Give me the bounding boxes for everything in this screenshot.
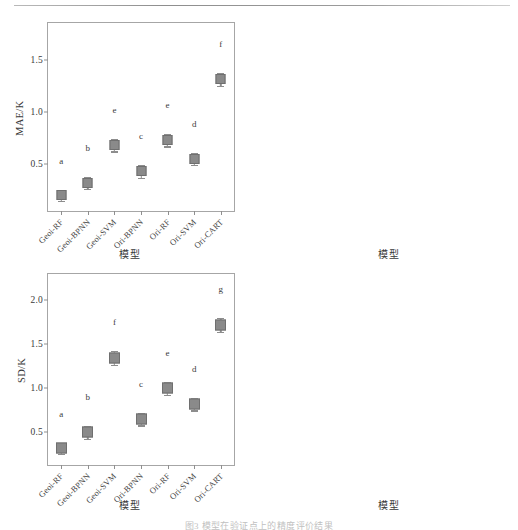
y-tick-mae-0: 0.5 — [31, 159, 48, 169]
marker-sd-0 — [56, 443, 67, 454]
error-cap-mae-0-low — [58, 201, 65, 202]
data-point-sd-1[interactable]: b — [87, 274, 88, 465]
x-tick-sd-0 — [61, 465, 62, 469]
x-tick-mae-1 — [88, 211, 89, 215]
sig-letter-sd-4: e — [166, 348, 170, 358]
y-axis-label-sd: SD/K — [16, 358, 27, 383]
plot-area-sd: 0.51.01.52.0Geoi-RFaGeoi-BPNNbGeoi-SVMfO… — [47, 273, 235, 466]
x-tick-sd-4 — [168, 465, 169, 469]
panel-mae: 0.51.01.5Geoi-RFaGeoi-BPNNbGeoi-SVMeOri-… — [0, 8, 259, 265]
panel-r2: 0.900.951.001.05Geoi-RFcGeoi-BPNNcGeoi-S… — [259, 265, 518, 508]
plot-area-mae: 0.51.01.5Geoi-RFaGeoi-BPNNbGeoi-SVMeOri-… — [47, 22, 235, 212]
error-cap-sd-4-low — [164, 395, 171, 396]
data-point-mae-0[interactable]: a — [61, 23, 62, 211]
x-axis-title-rmse: 模型 — [259, 246, 518, 261]
x-tick-sd-1 — [88, 465, 89, 469]
panel-rmse: 0.51.01.52.0Geoi-RFaGeoi-BPNNbGeoi-SVMeO… — [259, 8, 518, 265]
marker-mae-4 — [163, 135, 173, 145]
x-tick-mae-6 — [221, 211, 222, 215]
marker-mae-3 — [136, 166, 146, 176]
x-tick-mae-2 — [114, 211, 115, 215]
sig-letter-sd-3: c — [139, 379, 143, 389]
y-axis-label-mae: MAE/K — [14, 101, 25, 136]
sig-letter-mae-2: e — [112, 105, 116, 115]
sig-letter-sd-5: d — [192, 364, 197, 374]
figure-panel-grid: 0.51.01.5Geoi-RFaGeoi-BPNNbGeoi-SVMeOri-… — [0, 8, 518, 508]
scan-artifact-rule — [14, 5, 510, 6]
data-point-sd-3[interactable]: c — [141, 274, 142, 465]
data-point-sd-6[interactable]: g — [220, 274, 221, 465]
y-tick-sd-2: 1.5 — [31, 339, 48, 349]
error-cap-sd-2-low — [111, 365, 118, 366]
marker-sd-5 — [189, 399, 200, 410]
data-point-sd-4[interactable]: e — [167, 274, 168, 465]
data-point-sd-5[interactable]: d — [194, 274, 195, 465]
marker-sd-4 — [162, 383, 173, 394]
error-cap-mae-2-low — [111, 151, 118, 152]
data-point-mae-4[interactable]: e — [167, 23, 168, 211]
marker-sd-3 — [136, 414, 147, 425]
y-tick-sd-1: 1.0 — [31, 383, 48, 393]
sig-letter-mae-5: d — [192, 119, 197, 129]
y-tick-sd-0: 0.5 — [31, 427, 48, 437]
error-cap-mae-3-low — [138, 178, 145, 179]
x-tick-sd-3 — [141, 465, 142, 469]
sig-letter-mae-0: a — [59, 156, 63, 166]
x-tick-mae-4 — [168, 211, 169, 215]
error-cap-sd-3-low — [138, 425, 145, 426]
marker-mae-5 — [189, 154, 199, 164]
sig-letter-sd-1: b — [86, 392, 91, 402]
error-cap-sd-6-low — [217, 332, 224, 333]
x-tick-sd-6 — [221, 465, 222, 469]
plot-inner-sd: 0.51.01.52.0Geoi-RFaGeoi-BPNNbGeoi-SVMfO… — [48, 274, 234, 465]
data-point-mae-3[interactable]: c — [141, 23, 142, 211]
sig-letter-sd-2: f — [113, 317, 116, 327]
x-axis-title-sd: 模型 — [0, 497, 259, 512]
sig-letter-mae-6: f — [219, 39, 222, 49]
x-axis-title-r2: 模型 — [259, 497, 518, 512]
marker-sd-2 — [109, 352, 120, 363]
error-cap-mae-4-low — [164, 146, 171, 147]
marker-mae-2 — [109, 140, 119, 150]
data-point-sd-0[interactable]: a — [61, 274, 62, 465]
error-cap-sd-1-low — [84, 439, 91, 440]
x-tick-sd-2 — [114, 465, 115, 469]
error-cap-sd-5-low — [191, 410, 198, 411]
y-tick-mae-2: 1.5 — [31, 55, 48, 65]
sig-letter-mae-3: c — [139, 131, 143, 141]
x-tick-mae-3 — [141, 211, 142, 215]
error-cap-mae-5-low — [191, 165, 198, 166]
marker-mae-1 — [83, 178, 93, 188]
data-point-mae-2[interactable]: e — [114, 23, 115, 211]
x-axis-title-mae: 模型 — [0, 246, 259, 261]
marker-mae-0 — [56, 190, 66, 200]
plot-inner-mae: 0.51.01.5Geoi-RFaGeoi-BPNNbGeoi-SVMeOri-… — [48, 23, 234, 211]
sig-letter-sd-0: a — [59, 409, 63, 419]
marker-sd-6 — [215, 320, 226, 331]
error-cap-mae-6-low — [217, 86, 224, 87]
data-point-mae-1[interactable]: b — [87, 23, 88, 211]
sig-letter-sd-6: g — [218, 284, 223, 294]
panel-sd: 0.51.01.52.0Geoi-RFaGeoi-BPNNbGeoi-SVMfO… — [0, 265, 259, 508]
marker-sd-1 — [82, 427, 93, 438]
marker-mae-6 — [216, 74, 226, 84]
sig-letter-mae-1: b — [86, 143, 91, 153]
y-tick-sd-3: 2.0 — [31, 295, 48, 305]
data-point-sd-2[interactable]: f — [114, 274, 115, 465]
x-tick-sd-5 — [194, 465, 195, 469]
figure-caption: 图3 模型在验证点上的精度评价结果 — [0, 519, 518, 530]
y-tick-mae-1: 1.0 — [31, 107, 48, 117]
error-cap-mae-1-low — [84, 189, 91, 190]
x-tick-mae-0 — [61, 211, 62, 215]
data-point-mae-6[interactable]: f — [220, 23, 221, 211]
data-point-mae-5[interactable]: d — [194, 23, 195, 211]
sig-letter-mae-4: e — [166, 100, 170, 110]
x-tick-mae-5 — [194, 211, 195, 215]
